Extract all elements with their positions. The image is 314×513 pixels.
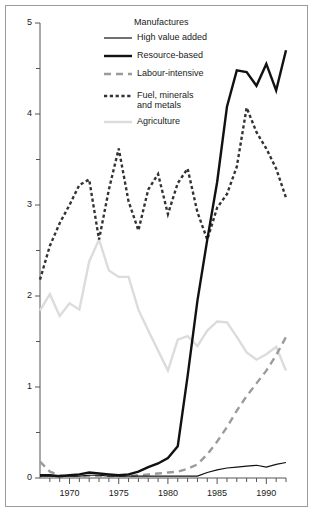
y-tick-label: 3 bbox=[14, 199, 32, 209]
series-line bbox=[40, 337, 286, 476]
legend-item-label: Fuel, minerals and metals bbox=[137, 90, 194, 110]
y-tick-label: 0 bbox=[14, 472, 32, 482]
legend-swatch-icon bbox=[104, 50, 132, 62]
y-tick-label: 4 bbox=[14, 108, 32, 118]
legend-item-label: Labour-intensive bbox=[137, 68, 204, 78]
legend-item: Labour-intensive bbox=[104, 68, 236, 80]
x-tick-label: 1975 bbox=[104, 488, 134, 498]
legend-swatch-icon bbox=[104, 116, 132, 128]
x-tick-label: 1980 bbox=[153, 488, 183, 498]
x-tick-label: 1985 bbox=[202, 488, 232, 498]
y-tick-label: 2 bbox=[14, 290, 32, 300]
legend-item-label: Agriculture bbox=[137, 116, 180, 126]
chart-legend: Manufactures High value addedResource-ba… bbox=[104, 17, 236, 134]
legend-item: Resource-based bbox=[104, 50, 236, 62]
legend-item: High value added bbox=[104, 32, 236, 44]
legend-swatch-icon bbox=[104, 90, 132, 102]
y-tick-label: 5 bbox=[14, 17, 32, 27]
legend-title: Manufactures bbox=[134, 17, 236, 27]
legend-item: Fuel, minerals and metals bbox=[104, 90, 236, 110]
legend-items: High value addedResource-basedLabour-int… bbox=[104, 32, 236, 128]
y-tick-label: 1 bbox=[14, 381, 32, 391]
x-tick-label: 1990 bbox=[251, 488, 281, 498]
chart-figure: 012345 19701975198019851990 Manufactures… bbox=[0, 0, 314, 513]
x-tick-label: 1970 bbox=[55, 488, 85, 498]
legend-item: Agriculture bbox=[104, 116, 236, 128]
legend-swatch-icon bbox=[104, 68, 132, 80]
legend-swatch-icon bbox=[104, 32, 132, 44]
legend-item-label: High value added bbox=[137, 32, 207, 42]
legend-item-label: Resource-based bbox=[137, 50, 203, 60]
series-line bbox=[40, 240, 286, 371]
